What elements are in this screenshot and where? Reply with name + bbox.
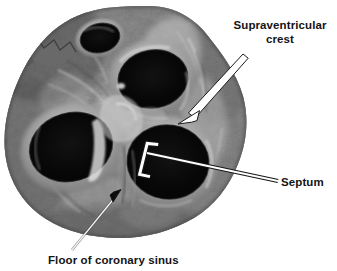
label-septum: Septum [281, 176, 324, 190]
anatomical-figure: Supraventricular crest Septum Floor of c… [0, 0, 337, 271]
specimen-image [0, 0, 250, 248]
label-supraventricular-crest: Supraventricular crest [225, 19, 335, 46]
label-supraventricular-crest-line1: Supraventricular [225, 19, 335, 33]
specimen-tissue [0, 0, 250, 248]
label-supraventricular-crest-line2: crest [225, 33, 335, 47]
specimen-photograph [0, 0, 250, 248]
label-floor-of-coronary-sinus: Floor of coronary sinus [48, 254, 179, 268]
